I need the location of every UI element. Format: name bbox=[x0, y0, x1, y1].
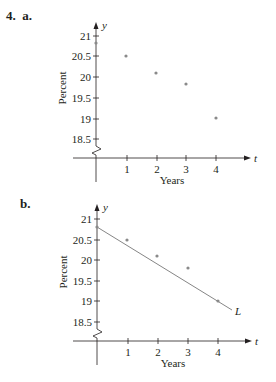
axis-break-icon bbox=[92, 146, 101, 155]
svg-text:21: 21 bbox=[80, 30, 91, 42]
svg-text:3: 3 bbox=[185, 346, 191, 358]
data-point bbox=[95, 225, 98, 228]
svg-text:20.5: 20.5 bbox=[73, 234, 93, 246]
axis-break-icon bbox=[93, 329, 102, 338]
svg-text:4: 4 bbox=[213, 163, 219, 175]
data-point bbox=[184, 82, 187, 85]
data-point bbox=[94, 41, 97, 44]
x-axis-label: Years bbox=[161, 357, 186, 369]
y-axis-label: Percent bbox=[57, 256, 69, 289]
svg-text:19.5: 19.5 bbox=[72, 92, 92, 104]
y-axis-arrow-icon bbox=[94, 22, 99, 29]
y-tick-labels: 21 20.5 20 19.5 19 18.5 bbox=[72, 30, 92, 145]
data-point bbox=[216, 299, 219, 302]
x-axis-arrow-icon bbox=[245, 339, 252, 344]
line-L-label: L bbox=[234, 305, 241, 317]
svg-text:4: 4 bbox=[215, 346, 221, 358]
x-axis-arrow-icon bbox=[244, 156, 251, 161]
data-point bbox=[155, 254, 158, 257]
svg-text:19: 19 bbox=[80, 113, 92, 125]
data-points bbox=[94, 41, 217, 119]
data-point bbox=[154, 71, 157, 74]
y-axis-label: Percent bbox=[56, 72, 68, 105]
svg-text:1: 1 bbox=[125, 346, 131, 358]
svg-text:1: 1 bbox=[124, 163, 130, 175]
y-axis-var: y bbox=[102, 201, 108, 213]
svg-text:20: 20 bbox=[81, 254, 93, 266]
x-axis-var: t bbox=[255, 335, 259, 347]
svg-text:18.5: 18.5 bbox=[73, 316, 93, 328]
data-point bbox=[124, 54, 127, 57]
svg-text:20: 20 bbox=[80, 71, 92, 83]
svg-text:21: 21 bbox=[81, 213, 92, 225]
svg-text:19.5: 19.5 bbox=[73, 275, 93, 287]
x-axis-label: Years bbox=[160, 174, 185, 186]
y-tick-labels: 21 20.5 20 19.5 19 18.5 bbox=[73, 213, 93, 328]
data-point bbox=[125, 238, 128, 241]
x-axis-var: t bbox=[254, 152, 258, 164]
line-L bbox=[97, 227, 232, 310]
y-axis-arrow-icon bbox=[95, 204, 100, 211]
chart-a: y t 21 20.5 20 19.5 19 18.5 1 2 3 4 Year… bbox=[0, 0, 276, 190]
svg-text:18.5: 18.5 bbox=[72, 133, 92, 145]
chart-b: y t 21 20.5 20 19.5 19 18.5 1 2 3 4 Year… bbox=[0, 190, 276, 382]
svg-text:19: 19 bbox=[81, 295, 93, 307]
y-axis-var: y bbox=[101, 19, 107, 31]
svg-text:20.5: 20.5 bbox=[72, 50, 92, 62]
data-point bbox=[214, 116, 217, 119]
data-point bbox=[186, 266, 189, 269]
